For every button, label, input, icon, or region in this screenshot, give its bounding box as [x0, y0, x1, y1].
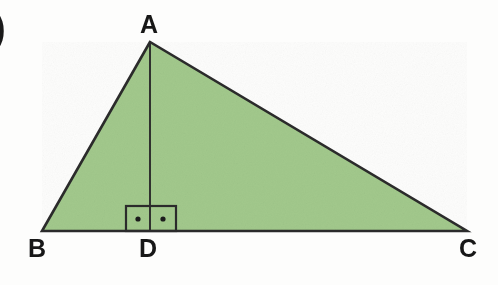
right-angle-dot-right	[160, 216, 165, 221]
vertex-label-b: B	[28, 236, 46, 261]
triangle-texture	[42, 42, 467, 231]
vertex-label-c: C	[459, 236, 477, 261]
triangle-diagram-svg	[0, 0, 498, 285]
geometry-figure: ) A B D C	[0, 0, 498, 285]
right-angle-dot-left	[135, 216, 140, 221]
vertex-label-a: A	[140, 12, 158, 37]
vertex-label-d: D	[139, 236, 157, 261]
